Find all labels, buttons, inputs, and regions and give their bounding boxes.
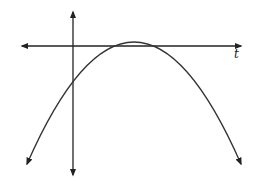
t-axis-label: t [234, 47, 239, 61]
parabola-graph [0, 0, 253, 184]
parabola-curve [27, 42, 241, 164]
